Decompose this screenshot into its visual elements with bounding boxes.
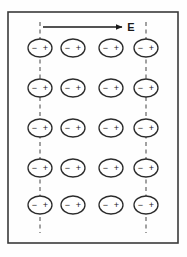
dipole-negative-charge: − — [65, 200, 70, 210]
dipole-negative-charge: − — [138, 200, 143, 210]
dipole-positive-charge: + — [43, 163, 48, 173]
dipole-positive-charge: + — [76, 83, 81, 93]
dipole-r4-c4: −+ — [134, 159, 158, 177]
dipole-negative-charge: − — [65, 123, 70, 133]
figure-canvas: E −+−+−+−+−+−+−+−+−+−+−+−+−+−+−+−+−+−+−+… — [0, 0, 187, 257]
dipole-negative-charge: − — [138, 43, 143, 53]
dipole-r2-c2: −+ — [61, 79, 85, 97]
dipole-r5-c3: −+ — [99, 196, 123, 214]
dipole-negative-charge: − — [65, 43, 70, 53]
dipole-positive-charge: + — [114, 83, 119, 93]
dipole-positive-charge: + — [76, 123, 81, 133]
dipole-r4-c1: −+ — [28, 159, 52, 177]
dipole-positive-charge: + — [149, 83, 154, 93]
dashed-guide-lines — [40, 22, 146, 233]
dipole-positive-charge: + — [114, 163, 119, 173]
field-arrow: E — [43, 21, 135, 33]
dipole-negative-charge: − — [103, 123, 108, 133]
dipole-r3-c1: −+ — [28, 119, 52, 137]
dipole-negative-charge: − — [103, 43, 108, 53]
dipole-positive-charge: + — [114, 123, 119, 133]
dipole-r1-c1: −+ — [28, 39, 52, 57]
dipole-negative-charge: − — [138, 123, 143, 133]
dipole-r2-c3: −+ — [99, 79, 123, 97]
dipole-positive-charge: + — [149, 200, 154, 210]
dipole-positive-charge: + — [149, 123, 154, 133]
dipole-negative-charge: − — [32, 83, 37, 93]
dipole-r4-c2: −+ — [61, 159, 85, 177]
dipole-negative-charge: − — [32, 163, 37, 173]
dipole-positive-charge: + — [149, 163, 154, 173]
dipole-positive-charge: + — [114, 43, 119, 53]
dipole-positive-charge: + — [43, 43, 48, 53]
dipole-lattice-figure: E −+−+−+−+−+−+−+−+−+−+−+−+−+−+−+−+−+−+−+… — [0, 0, 187, 257]
dipole-positive-charge: + — [76, 200, 81, 210]
dipole-r1-c4: −+ — [134, 39, 158, 57]
dipole-positive-charge: + — [43, 123, 48, 133]
dipole-r5-c2: −+ — [61, 196, 85, 214]
dipole-r1-c3: −+ — [99, 39, 123, 57]
dipole-r3-c3: −+ — [99, 119, 123, 137]
dipole-negative-charge: − — [103, 83, 108, 93]
dipole-negative-charge: − — [103, 200, 108, 210]
dipole-r2-c1: −+ — [28, 79, 52, 97]
dipole-positive-charge: + — [149, 43, 154, 53]
dipole-r4-c3: −+ — [99, 159, 123, 177]
dipole-negative-charge: − — [103, 163, 108, 173]
dipole-positive-charge: + — [76, 43, 81, 53]
dipole-negative-charge: − — [65, 83, 70, 93]
dipole-positive-charge: + — [43, 200, 48, 210]
dipole-r5-c4: −+ — [134, 196, 158, 214]
dipole-positive-charge: + — [114, 200, 119, 210]
dipole-negative-charge: − — [138, 163, 143, 173]
dipole-r5-c1: −+ — [28, 196, 52, 214]
dipole-negative-charge: − — [32, 43, 37, 53]
field-label-E: E — [127, 21, 134, 33]
dipole-positive-charge: + — [76, 163, 81, 173]
dipole-positive-charge: + — [43, 83, 48, 93]
dipole-r3-c2: −+ — [61, 119, 85, 137]
dipole-r3-c4: −+ — [134, 119, 158, 137]
dipole-grid: −+−+−+−+−+−+−+−+−+−+−+−+−+−+−+−+−+−+−+−+ — [28, 39, 158, 214]
dipole-negative-charge: − — [32, 200, 37, 210]
dipole-negative-charge: − — [65, 163, 70, 173]
dipole-negative-charge: − — [138, 83, 143, 93]
dipole-negative-charge: − — [32, 123, 37, 133]
dipole-r1-c2: −+ — [61, 39, 85, 57]
dipole-r2-c4: −+ — [134, 79, 158, 97]
